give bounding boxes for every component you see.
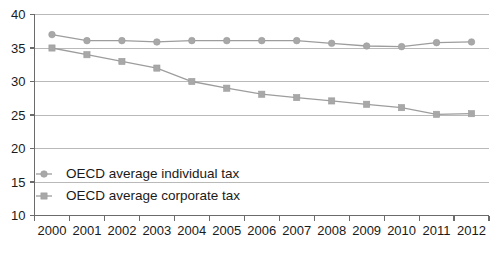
series-individual-tax [49,31,475,50]
x-axis-tick-labels: 2000200120022003200420052006200720082009… [38,223,486,238]
data-point [468,111,474,117]
data-point [119,37,126,44]
data-point [329,98,335,104]
data-point [293,37,300,44]
x-tick-label: 2010 [387,223,416,238]
data-point [154,65,160,71]
data-point [259,91,265,97]
data-point [224,85,230,91]
legend-marker-square-icon [41,193,47,199]
x-tick-label: 2000 [38,223,67,238]
x-tick-label: 2012 [457,223,486,238]
y-tick-label: 20 [11,141,25,156]
data-point [433,39,440,46]
x-axis-tick-marks [35,216,490,221]
data-point [294,94,300,100]
data-point [49,45,55,51]
data-point [49,31,56,38]
x-tick-label: 2001 [72,223,101,238]
chart-container: 10152025303540 2000200120022003200420052… [0,0,499,256]
x-tick-label: 2006 [247,223,276,238]
line-chart: 10152025303540 2000200120022003200420052… [0,0,499,256]
y-axis-tick-marks [30,15,35,216]
data-point [223,37,230,44]
x-tick-label: 2004 [177,223,206,238]
data-point [468,39,475,46]
data-point [398,43,405,50]
y-tick-label: 15 [11,175,25,190]
x-tick-label: 2005 [212,223,241,238]
x-tick-label: 2008 [317,223,346,238]
legend-item-individual-tax: OECD average individual tax [36,166,240,181]
legend-label: OECD average corporate tax [66,188,240,203]
data-point [154,39,161,46]
legend-item-corporate-tax: OECD average corporate tax [36,188,240,203]
data-point [258,37,265,44]
data-point [84,37,91,44]
x-tick-label: 2011 [423,223,451,238]
data-series [49,31,475,117]
x-tick-label: 2003 [142,223,171,238]
x-tick-label: 2009 [352,223,381,238]
y-tick-label: 35 [11,41,25,56]
y-axis-tick-labels: 10152025303540 [11,7,25,223]
legend-label: OECD average individual tax [66,166,240,181]
data-point [364,101,370,107]
x-tick-label: 2002 [107,223,136,238]
y-tick-label: 40 [11,7,25,22]
y-tick-label: 30 [11,74,25,89]
data-point [328,40,335,47]
data-point [189,37,196,44]
y-tick-label: 25 [11,108,25,123]
chart-legend: OECD average individual taxOECD average … [36,166,240,203]
x-tick-label: 2007 [282,223,311,238]
data-point [119,58,125,64]
data-point [189,78,195,84]
data-point [398,105,404,111]
y-tick-label: 10 [11,208,25,223]
data-point [84,52,90,58]
data-point [433,111,439,117]
data-point [363,43,370,50]
legend-marker-circle-icon [41,171,48,178]
